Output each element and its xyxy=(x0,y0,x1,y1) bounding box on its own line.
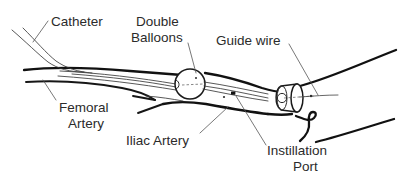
label-catheter: Catheter xyxy=(51,14,103,29)
artery-lower-right-limb xyxy=(316,119,394,142)
instillation-port-dot-secondary xyxy=(223,96,225,98)
catheter-tube-mid xyxy=(72,74,176,87)
proximal-balloon xyxy=(175,69,205,99)
artery-branch-hook xyxy=(296,112,316,141)
catheter-interballoon xyxy=(203,82,268,101)
anatomical-illustration: Catheter Double Balloons Guide wire Femo… xyxy=(0,0,410,175)
label-iliac-artery: Iliac Artery xyxy=(126,133,189,148)
label-femoral-artery-line2: Artery xyxy=(68,116,104,131)
catheter-inner-line xyxy=(23,28,92,73)
distal-balloon xyxy=(276,84,314,112)
proximal-balloon-marker xyxy=(195,77,197,79)
leader-instillation-port xyxy=(236,96,266,145)
guide-wire-endpoint xyxy=(310,95,312,97)
artery-lower-wall-iliac xyxy=(163,102,268,114)
interballoon-tube-lower xyxy=(203,89,268,101)
leader-iliac-artery xyxy=(200,107,228,133)
guide-wire-tip xyxy=(300,95,338,97)
leader-femoral-artery xyxy=(43,80,56,100)
interballoon-tube-upper xyxy=(204,82,268,94)
distal-balloon-right-cap xyxy=(291,84,303,112)
label-double-balloons-line2: Balloons xyxy=(131,30,183,45)
artery-lower-wall-distal xyxy=(268,114,292,115)
label-guide-wire: Guide wire xyxy=(216,33,281,48)
catheter-outer-line xyxy=(12,30,84,72)
guide-wire-shaft xyxy=(300,95,338,97)
label-instillation-port-line2: Port xyxy=(293,159,318,174)
label-femoral-artery-line1: Femoral xyxy=(59,100,109,115)
instillation-port-dot-main xyxy=(231,92,235,95)
label-instillation-port-line1: Instillation xyxy=(267,143,327,158)
diagram-canvas: Catheter Double Balloons Guide wire Femo… xyxy=(0,0,410,175)
label-double-balloons-line1: Double xyxy=(136,14,179,29)
leader-catheter xyxy=(33,21,48,42)
artery-branch-notch-lower xyxy=(138,104,163,113)
artery-upper-wall-distal xyxy=(300,50,396,86)
